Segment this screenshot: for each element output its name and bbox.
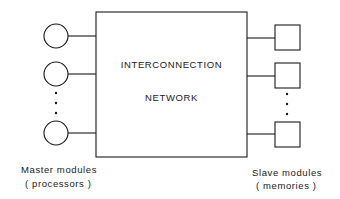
master-module-circle: [44, 24, 68, 48]
slave-modules-sublabel: ( memories ): [256, 180, 317, 191]
slave-module-square: [275, 63, 300, 88]
master-modules-sublabel: ( processors ): [25, 178, 91, 189]
slave-module-square: [275, 25, 300, 50]
slave-module-square: [275, 122, 300, 147]
master-modules-label: Master modules: [21, 164, 97, 175]
master-module-circle: [44, 62, 68, 86]
slave-modules-label: Slave modules: [252, 167, 322, 178]
network-title-line1: INTERCONNECTION: [96, 59, 247, 70]
master-module-circle: [44, 121, 68, 145]
interconnection-network-box: [96, 12, 247, 157]
network-title-line2: NETWORK: [96, 92, 247, 103]
